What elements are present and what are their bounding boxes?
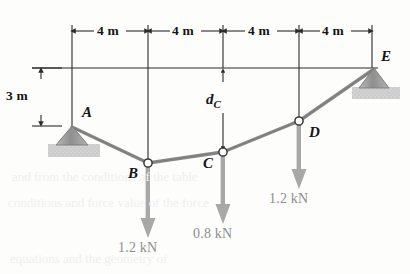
ground-e	[352, 87, 400, 99]
load-label-b: 1.2 kN	[118, 240, 157, 256]
point-label-d: D	[309, 124, 320, 141]
joint-d	[295, 117, 303, 125]
point-label-b: B	[128, 165, 138, 182]
cable-diagram-figure: and from the conditions of the table con…	[0, 0, 410, 274]
dimension-label-3m: 3 m	[6, 88, 28, 104]
dimension-label-3: 4 m	[248, 23, 270, 39]
gridlines	[72, 25, 372, 163]
load-arrow-c	[216, 152, 231, 224]
bleed-text-line-2: conditions and force value of the force	[8, 195, 209, 211]
joint-c	[219, 148, 227, 156]
dimension-label-1: 4 m	[97, 23, 119, 39]
dimension-label-2: 4 m	[172, 23, 194, 39]
point-label-a: A	[82, 104, 92, 121]
support-triangle-a	[56, 126, 88, 145]
dimension-label-4: 4 m	[322, 23, 344, 39]
point-label-e: E	[381, 48, 391, 65]
dimension-label-dc: dC	[206, 91, 221, 110]
joint-b	[144, 159, 152, 167]
support-e	[352, 68, 400, 99]
dimension-3m	[32, 68, 62, 126]
load-arrow-d	[292, 121, 307, 189]
ground-a	[48, 144, 100, 157]
dc-variable: d	[206, 91, 214, 107]
load-label-d: 1.2 kN	[269, 191, 308, 207]
dc-subscript: C	[214, 98, 221, 110]
bleed-text-line-1: and from the conditions of the table	[12, 169, 198, 185]
load-label-c: 0.8 kN	[193, 226, 232, 242]
support-a	[48, 126, 100, 157]
point-label-c: C	[203, 155, 213, 172]
